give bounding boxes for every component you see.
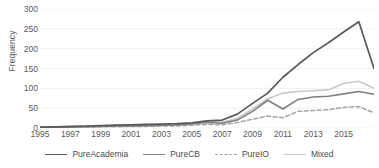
legend-item-pureacademia[interactable]: PureAcademia [45, 149, 128, 159]
y-axis-tick-150: 150 [12, 65, 38, 74]
x-axis-tick-1995: 1995 [25, 130, 55, 139]
legend-label: PureAcademia [72, 149, 128, 159]
series-line-pureacademia [40, 22, 374, 128]
legend-label: Mixed [311, 149, 334, 159]
legend-swatch-mixed [284, 154, 306, 155]
x-axis-tick-2015: 2015 [329, 130, 359, 139]
y-axis-tick-300: 300 [12, 5, 38, 14]
x-axis-tick-2011: 2011 [268, 130, 298, 139]
x-axis-tick-1999: 1999 [86, 130, 116, 139]
legend-item-mixed[interactable]: Mixed [284, 149, 334, 159]
chart-legend: PureAcademiaPureCBPureIOMixed [0, 147, 379, 161]
x-axis-tick-2005: 2005 [177, 130, 207, 139]
legend-item-pureio[interactable]: PureIO [215, 149, 269, 159]
y-axis-tick-100: 100 [12, 84, 38, 93]
legend-item-purecb[interactable]: PureCB [143, 149, 200, 159]
legend-label: PureCB [170, 149, 200, 159]
x-axis-tick-2003: 2003 [146, 130, 176, 139]
series-line-pureio [40, 107, 374, 128]
x-axis-tick-labels: 1995199719992001200320052007200920112013… [40, 130, 374, 142]
legend-swatch-purecb [143, 154, 165, 155]
x-axis-tick-2001: 2001 [116, 130, 146, 139]
legend-swatch-pureacademia [45, 154, 67, 155]
y-axis-tick-250: 250 [12, 25, 38, 34]
x-axis-tick-1997: 1997 [55, 130, 85, 139]
plot-svg [40, 9, 374, 128]
legend-label: PureIO [242, 149, 269, 159]
plot-area [40, 9, 374, 128]
y-axis-tick-labels: 300250200150100500 [8, 0, 38, 168]
y-axis-tick-50: 50 [12, 104, 38, 113]
x-axis-tick-2013: 2013 [298, 130, 328, 139]
legend-swatch-pureio [215, 154, 237, 155]
x-axis-tick-2009: 2009 [238, 130, 268, 139]
y-axis-tick-200: 200 [12, 45, 38, 54]
x-axis-tick-2007: 2007 [207, 130, 237, 139]
frequency-line-chart: Frequency 300250200150100500 19951997199… [0, 0, 379, 168]
